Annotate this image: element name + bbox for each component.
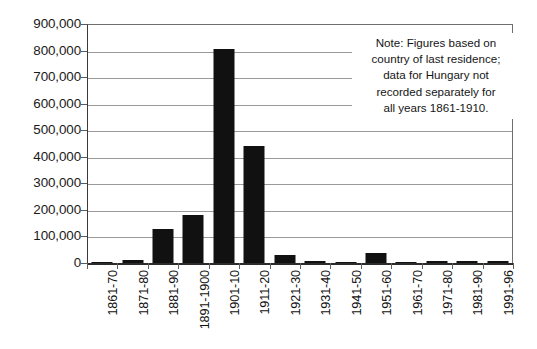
x-axis-tick-label: 1981-90 — [472, 270, 485, 349]
x-axis-tick-label: 1961-70 — [412, 270, 425, 349]
bar-slot — [209, 24, 239, 263]
x-axis-tick-label: 1871-80 — [138, 270, 151, 349]
y-axis-tick-label: 800,000 — [3, 44, 81, 57]
x-axis-tick-mark — [513, 263, 514, 269]
x-axis-tick-label: 1941-50 — [351, 270, 364, 349]
y-axis-tick-label: 700,000 — [3, 70, 81, 83]
bar-slot — [148, 24, 178, 263]
bar-slot — [239, 24, 269, 263]
x-axis-tick-label: 1931-40 — [320, 270, 333, 349]
x-axis-tick-label: 1911-20 — [259, 270, 272, 349]
y-axis-tick-label: 900,000 — [3, 17, 81, 30]
x-axis-tick-mark — [270, 263, 271, 269]
x-axis-tick-mark — [422, 263, 423, 269]
x-axis-tick-mark — [209, 263, 210, 269]
y-axis: 900,000800,000700,000600,000500,000400,0… — [0, 0, 81, 349]
bar-chart-figure: 900,000800,000700,000600,000500,000400,0… — [0, 0, 537, 349]
x-axis-tick-mark — [300, 263, 301, 269]
x-axis-tick-mark — [391, 263, 392, 269]
x-axis-tick-mark — [330, 263, 331, 269]
x-axis-tick-mark — [87, 263, 88, 269]
x-axis-tick-label: 1881-90 — [168, 270, 181, 349]
x-axis-tick-mark — [361, 263, 362, 269]
chart-note-line: recorded separately for — [352, 84, 520, 100]
bar-slot — [270, 24, 300, 263]
x-axis-tick-mark — [239, 263, 240, 269]
bar-slot — [178, 24, 208, 263]
bar-slot — [87, 24, 117, 263]
bar-slot — [117, 24, 147, 263]
x-axis-tick-mark — [148, 263, 149, 269]
x-axis: 1861-701871-801881-901891-19001901-10191… — [87, 270, 513, 349]
chart-note-line: country of last residence; — [352, 51, 520, 67]
bar — [213, 49, 234, 263]
chart-note-annotation: Note: Figures based oncountry of last re… — [352, 33, 520, 119]
x-axis-tick-label: 1951-60 — [381, 270, 394, 349]
x-axis-tick-label: 1901-10 — [229, 270, 242, 349]
x-axis-tick-mark — [483, 263, 484, 269]
bar — [244, 146, 265, 263]
bar — [153, 229, 174, 263]
x-axis-tick-label: 1891-1900 — [199, 270, 212, 349]
x-axis-tick-label: 1921-30 — [290, 270, 303, 349]
chart-note-line: all years 1861-1910. — [352, 100, 520, 116]
x-axis-tick-label: 1861-70 — [107, 270, 120, 349]
y-axis-tick-label: 500,000 — [3, 124, 81, 137]
y-axis-tick-label: 200,000 — [3, 203, 81, 216]
chart-note-line: Note: Figures based on — [352, 35, 520, 51]
bar-slot — [300, 24, 330, 263]
y-axis-tick-label: 300,000 — [3, 177, 81, 190]
bar — [366, 253, 387, 263]
x-axis-tick-mark — [117, 263, 118, 269]
x-axis-tick-label: 1991-96 — [503, 270, 516, 349]
y-axis-tick-label: 100,000 — [3, 230, 81, 243]
y-axis-tick-label: 0 — [3, 256, 81, 269]
y-axis-tick-label: 600,000 — [3, 97, 81, 110]
bar — [183, 215, 204, 263]
x-axis-tick-mark — [452, 263, 453, 269]
x-axis-ticks — [87, 263, 513, 270]
y-axis-tick-label: 400,000 — [3, 150, 81, 163]
x-axis-tick-label: 1971-80 — [442, 270, 455, 349]
chart-note-line: data for Hungary not — [352, 67, 520, 83]
x-axis-tick-mark — [178, 263, 179, 269]
bar — [274, 255, 295, 263]
